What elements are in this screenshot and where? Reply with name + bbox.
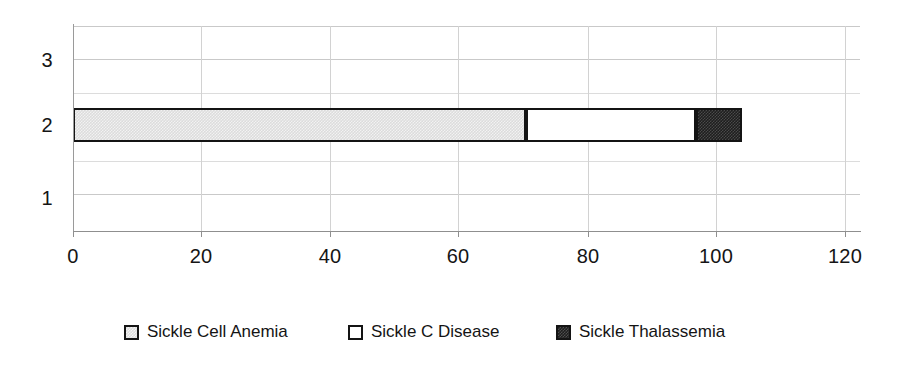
bar-segment-sickle-thalassemia bbox=[696, 108, 742, 142]
y-axis-line bbox=[73, 24, 74, 232]
bar-segment-sickle-cell-anemia bbox=[73, 108, 526, 142]
gridline-horizontal-cat3 bbox=[73, 59, 860, 60]
x-tick-label-20: 20 bbox=[171, 244, 231, 268]
bar-category-2 bbox=[73, 108, 742, 142]
x-tick-label-40: 40 bbox=[300, 244, 360, 268]
plot-area bbox=[73, 26, 860, 231]
stacked-bar-chart: 0 20 40 60 80 100 120 3 2 1 Sickle Cell … bbox=[0, 0, 911, 375]
x-tick-label-0: 0 bbox=[43, 244, 103, 268]
y-tick-label-2: 2 bbox=[34, 113, 60, 137]
y-tick-label-3: 3 bbox=[34, 48, 60, 72]
legend-swatch-sickle-c-disease bbox=[348, 325, 363, 340]
x-tick-label-100: 100 bbox=[686, 244, 746, 268]
legend-item-sickle-thalassemia: Sickle Thalassemia bbox=[556, 322, 725, 342]
gridline-horizontal-minor-2 bbox=[73, 161, 860, 162]
gridline-horizontal-cat1 bbox=[73, 194, 860, 195]
legend-swatch-sickle-thalassemia bbox=[556, 325, 571, 340]
legend-item-sickle-cell-anemia: Sickle Cell Anemia bbox=[124, 322, 288, 342]
x-tick-mark-120 bbox=[845, 231, 846, 237]
x-tick-label-60: 60 bbox=[428, 244, 488, 268]
gridline-horizontal-minor-1 bbox=[73, 93, 860, 94]
x-tick-label-80: 80 bbox=[558, 244, 618, 268]
legend-label-sickle-cell-anemia: Sickle Cell Anemia bbox=[147, 322, 288, 342]
x-tick-mark-80 bbox=[588, 231, 589, 237]
x-tick-mark-60 bbox=[458, 231, 459, 237]
legend-item-sickle-c-disease: Sickle C Disease bbox=[348, 322, 500, 342]
gridline-vertical-120 bbox=[845, 26, 846, 231]
x-tick-label-120: 120 bbox=[815, 244, 875, 268]
chart-legend: Sickle Cell Anemia Sickle C Disease Sick… bbox=[0, 322, 911, 348]
legend-label-sickle-c-disease: Sickle C Disease bbox=[371, 322, 500, 342]
x-tick-mark-20 bbox=[201, 231, 202, 237]
x-tick-mark-100 bbox=[716, 231, 717, 237]
bar-segment-sickle-c-disease bbox=[526, 108, 697, 142]
x-axis-line bbox=[73, 231, 861, 232]
legend-swatch-sickle-cell-anemia bbox=[124, 325, 139, 340]
gridline-horizontal-top bbox=[73, 26, 860, 27]
legend-label-sickle-thalassemia: Sickle Thalassemia bbox=[579, 322, 725, 342]
x-tick-mark-0 bbox=[73, 231, 74, 237]
x-tick-mark-40 bbox=[330, 231, 331, 237]
y-tick-label-1: 1 bbox=[34, 186, 60, 210]
